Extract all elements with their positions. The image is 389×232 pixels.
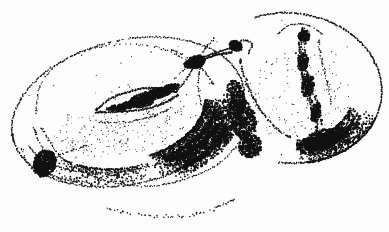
apple-stipple-drawing (0, 0, 389, 232)
stipple-illustration: Stippled pen-and-ink illustration of two… (0, 0, 389, 232)
